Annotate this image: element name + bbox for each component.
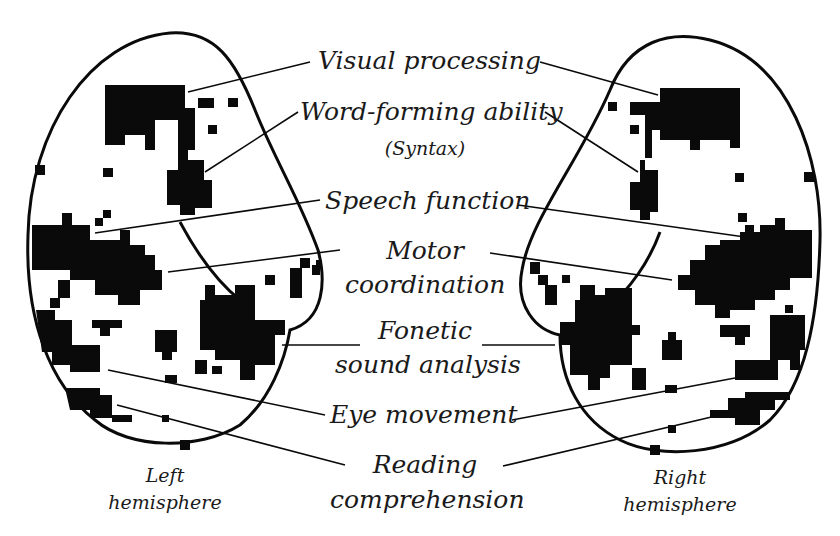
label-sound-analysis: sound analysis [335,350,515,380]
label-syntax: (Syntax) [370,137,480,159]
label-reading: Reading [365,450,485,480]
left-activity-regions [32,85,322,450]
right-activity-regions [530,88,814,455]
label-left-hemisphere-2: hemisphere [100,490,230,514]
label-motor: Motor [365,236,485,266]
label-fonetic: Fonetic [370,316,480,346]
label-right-hemisphere-2: hemisphere [610,492,750,516]
label-word-forming-ability: Word-forming ability [300,97,545,127]
label-left-hemisphere-1: Left [110,463,220,487]
label-eye-movement: Eye movement [330,400,510,430]
label-speech-function: Speech function [325,186,515,216]
label-comprehension: comprehension [330,485,520,515]
label-coordination: coordination [345,270,505,300]
label-visual-processing: Visual processing [318,46,523,76]
label-right-hemisphere-1: Right [625,465,735,489]
